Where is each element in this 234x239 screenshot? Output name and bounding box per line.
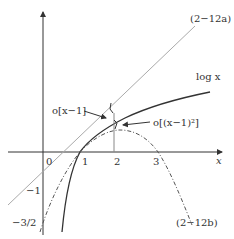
tangent-line (8, 26, 195, 205)
quadratic-error-label: o[(x−1)²] (153, 118, 199, 128)
x-tick-0: 0 (46, 157, 52, 167)
x-tick-1: 1 (82, 157, 88, 167)
y-tick-minus3-2: −3/2 (12, 218, 36, 228)
parabola-label: (2−12b) (176, 218, 218, 228)
log-curve-label: log x (196, 72, 220, 82)
parabola-curve (40, 130, 192, 232)
x-tick-3: 3 (153, 157, 159, 167)
x-axis-label: x (216, 156, 222, 166)
tangent-line-label: (2−12a) (190, 14, 231, 24)
linear-error-label: o[x−1] (52, 106, 86, 116)
y-tick-minus1: −1 (26, 186, 41, 196)
x-tick-2: 2 (114, 157, 120, 167)
quadratic-error-arrow (123, 122, 150, 125)
